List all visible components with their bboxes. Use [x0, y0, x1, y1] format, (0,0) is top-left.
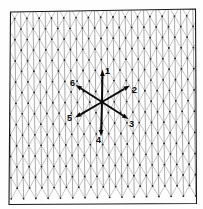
vector-label-4: 4 [96, 136, 101, 145]
vector-label-1: 1 [105, 67, 110, 76]
vector-label-2: 2 [132, 86, 137, 95]
lattice-figure: 123456 [0, 0, 203, 209]
vector-label-6: 6 [70, 79, 75, 88]
vector-label-5: 5 [67, 114, 72, 123]
vector-label-3: 3 [129, 120, 134, 129]
lattice-diagram [0, 0, 203, 209]
